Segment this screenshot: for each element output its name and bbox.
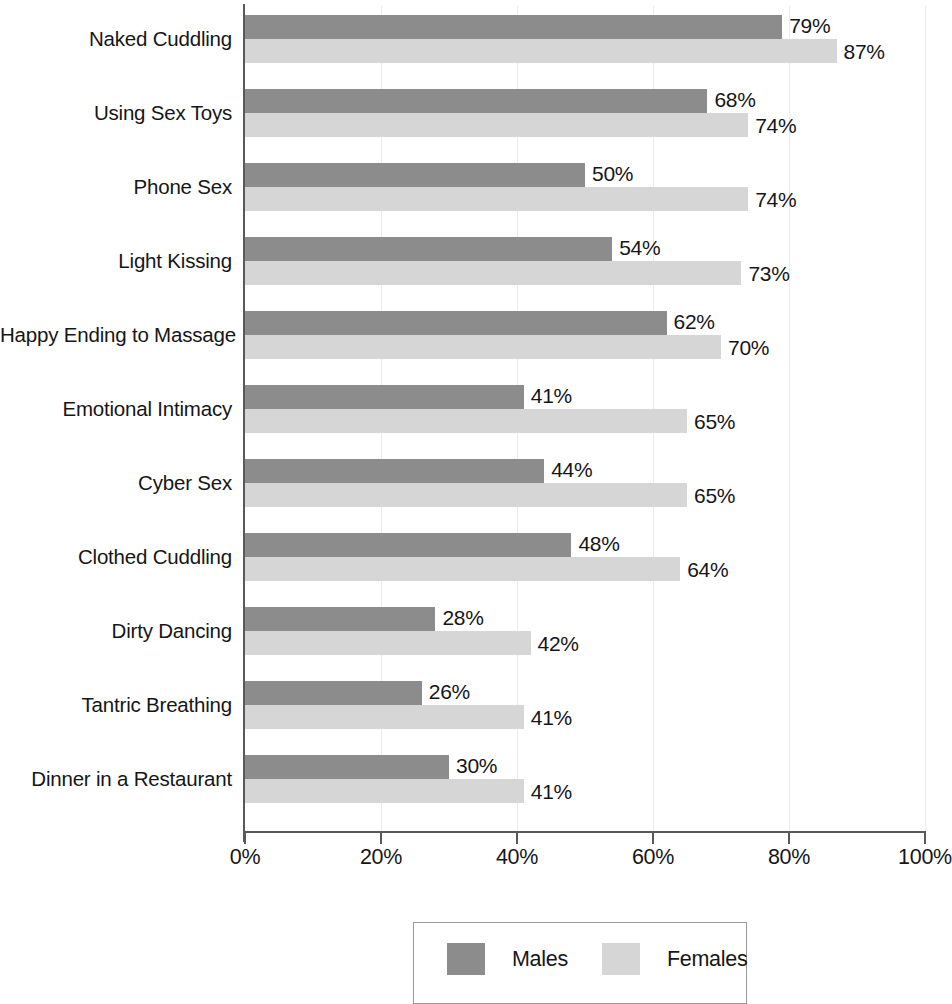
x-tick-mark — [244, 833, 246, 844]
bar-male — [245, 15, 782, 39]
category-label: Phone Sex — [0, 163, 232, 211]
legend-item-males[interactable]: Males — [447, 941, 568, 977]
x-axis-line — [243, 831, 926, 833]
bar-row: Tantric Breathing26%41% — [0, 681, 951, 729]
bar-female — [245, 631, 531, 655]
bar-value-female: 42% — [538, 629, 579, 659]
legend-swatch — [447, 943, 485, 975]
bar-female — [245, 409, 687, 433]
legend-item-females[interactable]: Females — [602, 941, 747, 977]
bar-row: Dirty Dancing28%42% — [0, 607, 951, 655]
bar-track: 48%64% — [245, 533, 951, 581]
bar-female — [245, 39, 837, 63]
bar-row: Naked Cuddling79%87% — [0, 15, 951, 63]
category-label: Cyber Sex — [0, 459, 232, 507]
bar-value-female: 64% — [687, 555, 728, 585]
bar-female — [245, 779, 524, 803]
bar-female — [245, 335, 721, 359]
bar-value-male: 30% — [456, 751, 497, 781]
bar-female — [245, 557, 680, 581]
category-label: Using Sex Toys — [0, 89, 232, 137]
bar-male — [245, 89, 707, 113]
bar-value-male: 44% — [551, 455, 592, 485]
bar-value-male: 68% — [714, 85, 755, 115]
bar-value-female: 87% — [844, 37, 885, 67]
legend-swatch — [602, 943, 640, 975]
category-label: Tantric Breathing — [0, 681, 232, 729]
bar-track: 44%65% — [245, 459, 951, 507]
bar-male — [245, 681, 422, 705]
bar-value-female: 74% — [755, 111, 796, 141]
category-label: Emotional Intimacy — [0, 385, 232, 433]
bar-track: 79%87% — [245, 15, 951, 63]
x-tick-label: 80% — [768, 845, 810, 870]
category-label: Light Kissing — [0, 237, 232, 285]
x-tick-label: 0% — [230, 845, 260, 870]
bar-female — [245, 187, 748, 211]
bar-male — [245, 237, 612, 261]
bar-row: Phone Sex50%74% — [0, 163, 951, 211]
x-tick-mark — [380, 833, 382, 844]
bar-value-male: 28% — [442, 603, 483, 633]
bar-track: 41%65% — [245, 385, 951, 433]
bar-value-male: 62% — [674, 307, 715, 337]
x-tick-mark — [652, 833, 654, 844]
bar-row: Clothed Cuddling48%64% — [0, 533, 951, 581]
bar-value-female: 41% — [531, 777, 572, 807]
bar-female — [245, 483, 687, 507]
bar-value-male: 41% — [531, 381, 572, 411]
legend-label: Females — [667, 947, 747, 972]
bar-track: 68%74% — [245, 89, 951, 137]
legend-label: Males — [512, 947, 568, 972]
x-tick-label: 40% — [496, 845, 538, 870]
bar-row: Light Kissing54%73% — [0, 237, 951, 285]
category-label: Naked Cuddling — [0, 15, 232, 63]
bar-value-male: 54% — [619, 233, 660, 263]
bar-row: Cyber Sex44%65% — [0, 459, 951, 507]
bar-row: Dinner in a Restaurant30%41% — [0, 755, 951, 803]
chart-legend: MalesFemales — [413, 922, 747, 1004]
bar-track: 30%41% — [245, 755, 951, 803]
bar-male — [245, 163, 585, 187]
bar-row: Emotional Intimacy41%65% — [0, 385, 951, 433]
bar-value-male: 26% — [429, 677, 470, 707]
category-label: Clothed Cuddling — [0, 533, 232, 581]
bar-value-female: 41% — [531, 703, 572, 733]
x-tick-mark — [788, 833, 790, 844]
bar-female — [245, 705, 524, 729]
plot-area: Naked Cuddling79%87%Using Sex Toys68%74%… — [0, 0, 951, 833]
x-tick-mark — [924, 833, 926, 844]
bar-value-male: 48% — [578, 529, 619, 559]
bar-track: 28%42% — [245, 607, 951, 655]
category-label: Dinner in a Restaurant — [0, 755, 232, 803]
category-label: Happy Ending to Massage — [0, 311, 232, 359]
bar-value-male: 50% — [592, 159, 633, 189]
x-tick-mark — [516, 833, 518, 844]
bar-row: Using Sex Toys68%74% — [0, 89, 951, 137]
x-tick-label: 20% — [360, 845, 402, 870]
x-tick-label: 100% — [898, 845, 952, 870]
bar-value-female: 65% — [694, 407, 735, 437]
bar-male — [245, 459, 544, 483]
bar-value-female: 70% — [728, 333, 769, 363]
bar-value-female: 74% — [755, 185, 796, 215]
bar-track: 62%70% — [245, 311, 951, 359]
bar-value-female: 65% — [694, 481, 735, 511]
category-label: Dirty Dancing — [0, 607, 232, 655]
bar-male — [245, 385, 524, 409]
bar-value-female: 73% — [748, 259, 789, 289]
bar-male — [245, 607, 435, 631]
bar-row: Happy Ending to Massage62%70% — [0, 311, 951, 359]
bar-male — [245, 311, 667, 335]
bar-female — [245, 113, 748, 137]
bar-track: 54%73% — [245, 237, 951, 285]
bar-male — [245, 533, 571, 557]
x-tick-label: 60% — [632, 845, 674, 870]
bar-track: 50%74% — [245, 163, 951, 211]
bar-track: 26%41% — [245, 681, 951, 729]
bar-value-male: 79% — [789, 11, 830, 41]
bar-female — [245, 261, 741, 285]
bar-male — [245, 755, 449, 779]
